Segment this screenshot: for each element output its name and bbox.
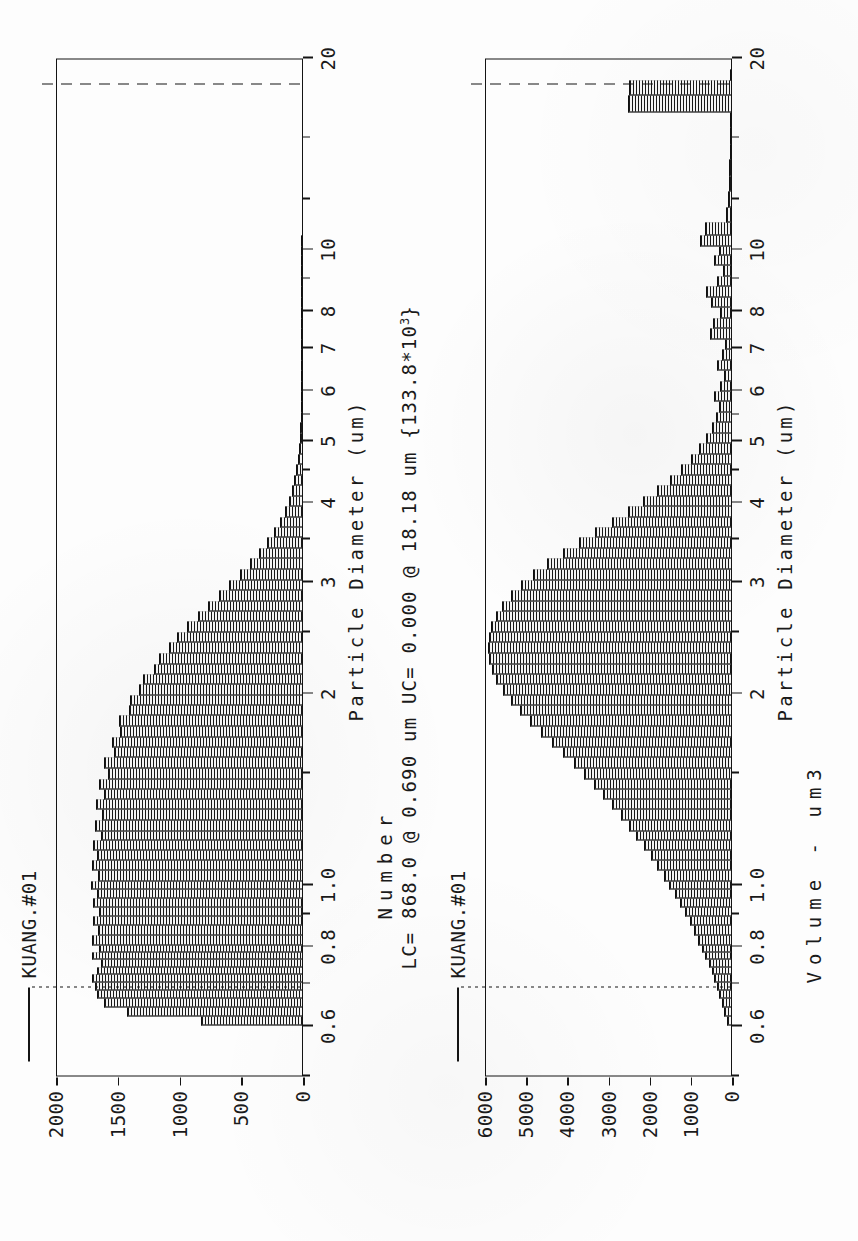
x-tick <box>732 346 742 348</box>
x-tick-minor <box>303 197 310 199</box>
histogram-bar <box>612 799 731 809</box>
y-tick <box>485 1077 487 1085</box>
histogram-bar <box>720 381 731 391</box>
x-tick-minor <box>732 468 739 470</box>
histogram-bar <box>680 898 731 907</box>
x-tick <box>303 389 313 391</box>
histogram-bar <box>725 339 731 350</box>
y-tick <box>526 1077 528 1085</box>
histogram-bar <box>727 1016 731 1025</box>
histogram-bar <box>694 925 731 935</box>
histogram-bar <box>705 952 731 959</box>
histogram-bar <box>714 974 731 982</box>
x-tick-label: 0.8 <box>746 928 768 964</box>
histogram-bar <box>541 726 731 737</box>
y-tick-label: 0 <box>721 1090 743 1102</box>
histogram-bar <box>92 935 302 945</box>
histogram-bar <box>240 569 302 580</box>
x-tick-minor <box>732 630 739 632</box>
x-tick-minor <box>303 277 310 279</box>
histogram-bar <box>657 860 731 870</box>
x-tick <box>303 439 313 441</box>
histogram-bar <box>584 768 731 779</box>
histogram-bar <box>702 945 731 952</box>
histogram-bar <box>730 69 731 80</box>
y-tick-label: 2000 <box>639 1090 661 1138</box>
x-tick <box>303 1024 313 1026</box>
x-tick-label: 20 <box>746 46 768 70</box>
y-tick-label: 4000 <box>556 1090 578 1138</box>
histogram-bar <box>93 840 302 850</box>
x-tick-label: 4 <box>317 496 339 508</box>
histogram-bar <box>93 916 302 925</box>
histogram-bar <box>511 695 731 705</box>
histogram-bar <box>301 328 302 339</box>
histogram-bar <box>104 998 302 1006</box>
x-tick <box>732 580 742 582</box>
y-tick <box>180 1077 182 1085</box>
histogram-bar <box>301 255 302 266</box>
histogram-bar <box>101 831 302 840</box>
y-tick <box>303 1077 305 1085</box>
histogram-bar <box>719 401 731 411</box>
lower-cut-marker-volume <box>461 986 732 987</box>
histogram-bar <box>301 360 302 371</box>
histogram-bar <box>99 779 302 789</box>
x-tick <box>303 580 313 582</box>
histogram-bar <box>699 443 731 453</box>
x-tick <box>732 883 742 885</box>
histogram-bar <box>629 820 731 831</box>
histogram-bar <box>603 789 731 799</box>
y-tick-label: 1000 <box>169 1090 191 1138</box>
histogram-bar <box>97 990 302 998</box>
histogram-bar <box>690 916 731 925</box>
histogram-bar <box>520 705 731 715</box>
histogram-bar <box>274 527 302 537</box>
histogram-bar <box>267 537 302 547</box>
histogram-bar <box>139 684 302 695</box>
histogram-bar <box>301 286 302 297</box>
x-tick <box>732 501 742 503</box>
histogram-bar <box>643 496 731 506</box>
histogram-bar <box>114 747 302 757</box>
lower-cut-marker-number <box>32 986 303 987</box>
histogram-bar <box>119 715 302 726</box>
x-tick-label: 10 <box>317 237 339 261</box>
histogram-bar <box>104 789 302 799</box>
chart-number-panel: 0.60.81.023456781020 0500100015002000 Pa… <box>0 0 429 1241</box>
legend-label: KUANG.#01 <box>447 870 469 978</box>
x-tick-minor <box>303 630 310 632</box>
histogram-bar <box>159 653 302 664</box>
histogram-bar <box>706 286 731 297</box>
legend-volume: KUANG.#01 <box>447 870 469 1061</box>
histogram-bar <box>511 590 731 601</box>
histogram-bar <box>714 391 731 401</box>
x-tick-minor <box>303 468 310 470</box>
histogram-bar <box>719 246 731 255</box>
histogram-bar <box>710 328 731 339</box>
histogram-bar <box>717 276 731 286</box>
histogram-bar <box>521 580 731 590</box>
histogram-bar <box>301 349 302 360</box>
histogram-bar <box>712 422 731 433</box>
x-tick <box>732 309 742 311</box>
histogram-bar <box>675 889 731 898</box>
histogram-bar <box>670 475 731 485</box>
histogram-bar <box>97 967 302 975</box>
histogram-bar <box>92 952 302 959</box>
histogram-bar <box>98 925 302 935</box>
x-tick-label: 0.6 <box>746 1008 768 1044</box>
histogram-bar <box>730 144 731 160</box>
x-tick-label: 5 <box>746 435 768 447</box>
histogram-bar <box>563 747 731 757</box>
histogram-bar <box>92 974 302 982</box>
histogram-bar <box>685 907 731 916</box>
x-tick <box>732 1024 742 1026</box>
x-tick <box>732 389 742 391</box>
legend-line-icon <box>457 987 459 1061</box>
x-tick-minor <box>732 912 739 914</box>
histogram-bar <box>595 527 731 537</box>
x-tick-minor <box>303 537 310 539</box>
histogram-bar <box>97 889 302 898</box>
x-tick-minor <box>732 982 739 984</box>
